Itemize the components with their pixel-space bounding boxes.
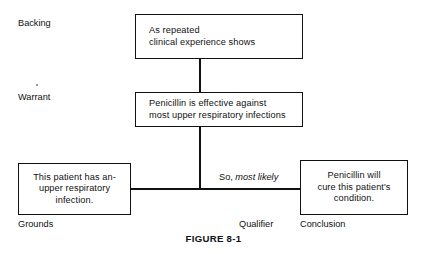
connector-grounds-to-conclusion-spine [130,188,301,190]
box-warrant-line-1: Penicillin is effective against [136,98,302,110]
figure-caption: FIGURE 8-1 [0,233,427,244]
qualifier-text: So, most likely [218,172,279,183]
label-grounds: Grounds [18,219,53,230]
box-backing-line-2: clinical experience shows [136,37,302,49]
qualifier-text-plain: So, [219,172,233,182]
box-backing-line-1: As repeated [136,25,302,37]
box-grounds-line-3: infection. [19,195,130,207]
box-conclusion-line-2: cure this patient's [301,182,407,194]
box-conclusion: Penicillin will cure this patient's cond… [300,160,408,215]
box-conclusion-line-3: condition. [301,193,407,205]
label-warrant: Warrant [18,92,50,103]
label-conclusion: Conclusion [300,219,345,230]
box-grounds: This patient has an- upper respiratory i… [18,163,131,215]
box-conclusion-line-1: Penicillin will [301,170,407,182]
label-qualifier: Qualifier [239,219,273,230]
scan-artifact-speck [36,84,38,86]
qualifier-text-italic: most likely [235,172,278,182]
box-backing: As repeated clinical experience shows [135,14,303,59]
box-grounds-line-2: upper respiratory [19,183,130,195]
label-backing: Backing [18,18,51,29]
connector-backing-to-warrant [199,58,201,93]
box-warrant: Penicillin is effective against most upp… [135,92,303,127]
box-grounds-line-1: This patient has an- [19,172,130,184]
figure-toulmin-diagram: Backing Warrant Grounds Qualifier Conclu… [0,0,427,254]
connector-warrant-to-spine [199,126,201,189]
box-warrant-line-2: most upper respiratory infections [136,110,302,122]
